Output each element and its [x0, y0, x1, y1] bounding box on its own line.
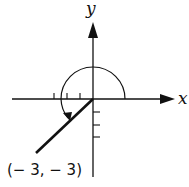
x-axis-arrow-icon — [160, 94, 175, 104]
y-axis-arrow-icon — [88, 22, 98, 38]
point-label: (− 3, − 3) — [7, 161, 82, 179]
x-axis-label: x — [178, 88, 188, 108]
angle-diagram: y x (− 3, − 3) — [0, 0, 189, 187]
y-axis-label: y — [85, 0, 96, 18]
terminal-ray — [36, 99, 93, 153]
y-tick-marks — [93, 112, 100, 137]
coordinate-plane: y x (− 3, − 3) — [0, 0, 189, 187]
x-tick-marks — [54, 93, 80, 99]
